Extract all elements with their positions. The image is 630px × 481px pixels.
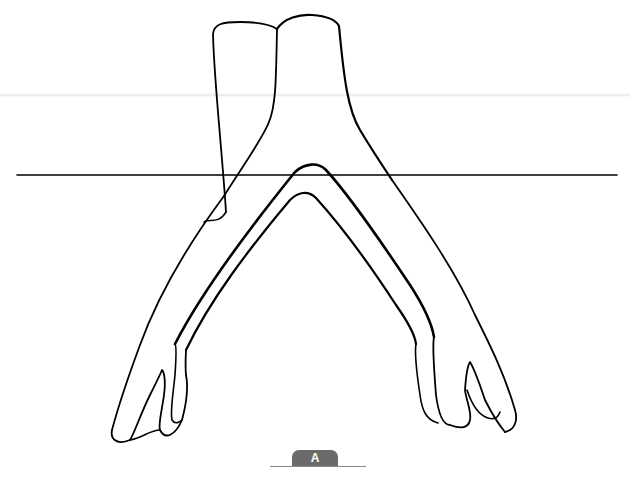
figure-label: A [270,450,366,468]
trunk-divider [224,29,277,196]
left-finger-base [171,344,182,423]
figure-label-tab: A [292,450,338,466]
front-trunk-outline [277,15,392,180]
back-arm-edge [204,212,226,222]
figure-label-rule [270,466,366,467]
outer-v-edge [175,165,434,344]
left-hand [130,350,187,440]
figure-canvas: A [0,0,630,481]
wishbone-drawing [0,0,630,481]
left-arm-outer [112,196,224,442]
back-trunk-outline [213,22,277,212]
right-arm-outer [392,180,516,432]
